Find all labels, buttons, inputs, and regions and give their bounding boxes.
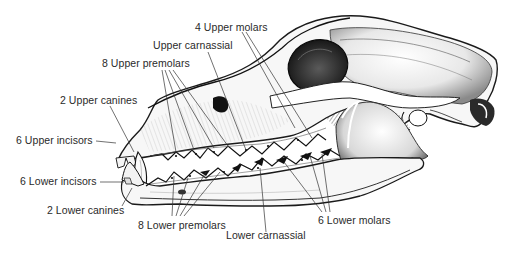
label-upper-canines: 2 Upper canines	[60, 94, 137, 106]
upper-skull	[118, 16, 497, 160]
label-upper-carnassial: Upper carnassial	[153, 39, 233, 51]
label-lower-molars: 6 Lower molars	[318, 214, 390, 226]
skull-diagram: 4 Upper molars Upper carnassial 8 Upper …	[0, 0, 518, 253]
condyle	[409, 110, 427, 126]
label-lower-premolars: 8 Lower premolars	[138, 219, 226, 231]
label-upper-incisors: 6 Upper incisors	[16, 134, 93, 146]
label-lower-carnassial: Lower carnassial	[226, 229, 306, 241]
label-upper-premolars: 8 Upper premolars	[102, 57, 190, 69]
label-lower-incisors: 6 Lower incisors	[20, 175, 97, 187]
label-lower-canines: 2 Lower canines	[47, 204, 124, 216]
label-upper-molars: 4 Upper molars	[195, 21, 267, 33]
